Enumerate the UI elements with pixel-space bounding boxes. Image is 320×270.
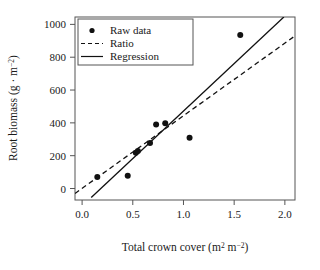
y-tick-label: 800 — [50, 51, 67, 63]
x-tick-label: 0.0 — [75, 208, 89, 220]
legend-label: Raw data — [110, 24, 151, 36]
x-tick-label: 2.0 — [278, 208, 292, 220]
legend-marker-circle — [89, 28, 94, 33]
data-point — [94, 174, 100, 180]
data-point — [147, 140, 153, 146]
x-tick-label: 0.5 — [126, 208, 140, 220]
data-point — [187, 135, 193, 141]
legend-label: Ratio — [110, 37, 134, 49]
y-tick-label: 600 — [50, 84, 67, 96]
x-tick-label: 1.0 — [177, 208, 191, 220]
y-axis-title: Root biomass (g · m−2) — [7, 55, 21, 161]
y-tick-label: 0 — [61, 183, 67, 195]
x-tick-label: 1.5 — [227, 208, 241, 220]
y-tick-label: 400 — [50, 117, 67, 129]
legend-label: Regression — [110, 50, 159, 62]
data-point — [135, 148, 141, 154]
scatter-plot: 0.00.51.01.52.0 02004006008001000 Raw da… — [0, 0, 320, 270]
data-point — [153, 122, 159, 128]
x-axis-title: Total crown cover (m2 m−2) — [122, 241, 249, 255]
y-tick-label: 1000 — [44, 18, 67, 30]
data-point — [162, 120, 168, 126]
y-axis-ticks: 02004006008001000 — [44, 18, 75, 194]
data-point — [125, 173, 131, 179]
chart-figure: 0.00.51.01.52.0 02004006008001000 Raw da… — [0, 0, 320, 270]
x-axis-ticks: 0.00.51.01.52.0 — [75, 200, 292, 220]
data-point — [237, 32, 243, 38]
y-tick-label: 200 — [50, 150, 67, 162]
